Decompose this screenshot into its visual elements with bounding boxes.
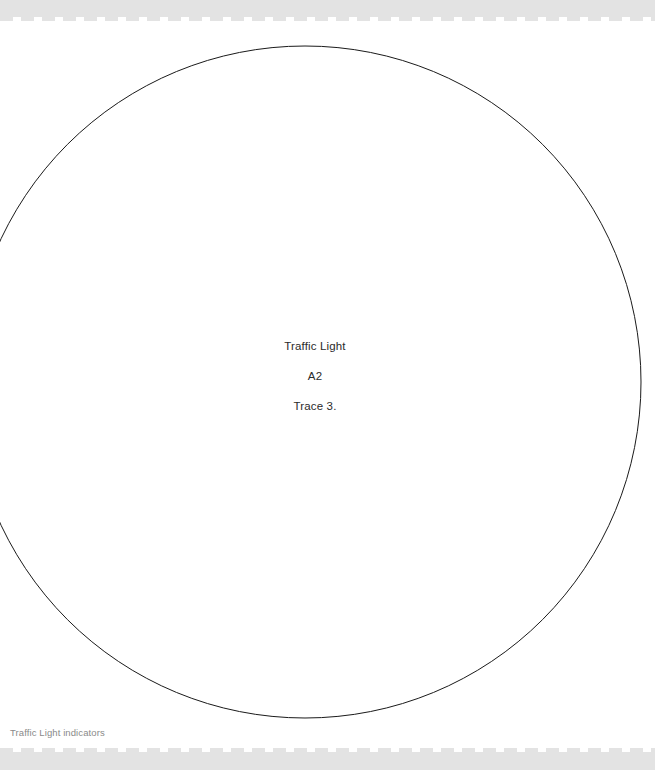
figure-caption: Traffic Light indicators <box>10 727 105 738</box>
page-canvas: Traffic Light A2 Trace 3. Traffic Light … <box>0 0 655 770</box>
circle-center-label: Traffic Light A2 Trace 3. <box>215 331 415 421</box>
center-label-line-1: Traffic Light <box>215 331 415 361</box>
center-label-line-3: Trace 3. <box>215 391 415 421</box>
center-label-line-2: A2 <box>215 361 415 391</box>
